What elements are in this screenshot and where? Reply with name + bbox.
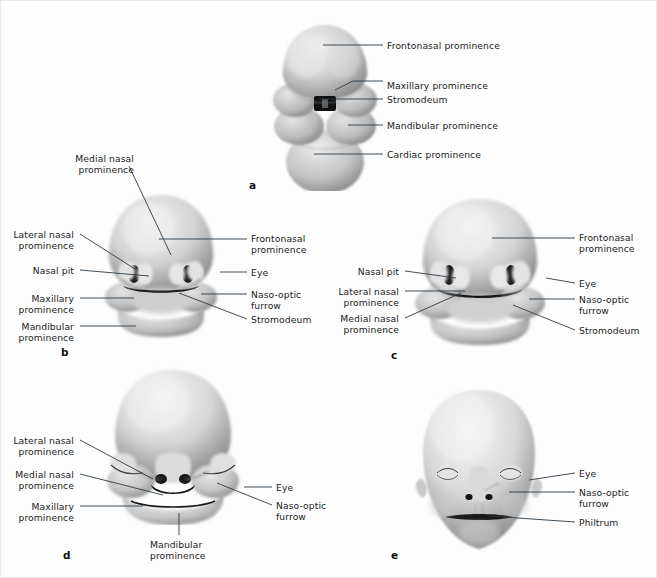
label-b-1: Lateral nasal prominence	[13, 229, 74, 252]
panel-letter-d: d	[63, 549, 71, 561]
label-e-1: Naso-optic furrow	[579, 487, 629, 510]
label-c-4: Eye	[579, 278, 596, 289]
label-e-0: Eye	[579, 468, 596, 479]
label-b-0: Medial nasal prominence	[75, 153, 134, 176]
label-b-4: Mandibular prominence	[18, 321, 74, 344]
figure-container: Frontonasal prominenceMaxillary prominen…	[0, 0, 657, 578]
label-a-0: Frontonasal prominence	[387, 40, 500, 51]
label-c-2: Medial nasal prominence	[340, 313, 399, 336]
label-c-3: Frontonasal prominence	[579, 232, 635, 255]
panel-c-illustration	[405, 195, 555, 347]
panel-letter-b: b	[61, 346, 69, 358]
label-b-7: Naso-optic furrow	[251, 289, 301, 312]
label-a-1: Maxillary prominence	[387, 80, 488, 91]
label-c-1: Lateral nasal prominence	[338, 286, 399, 309]
label-b-3: Maxillary prominence	[18, 293, 74, 316]
label-d-1: Medial nasal prominence	[15, 469, 74, 492]
label-d-3: Mandibular prominence	[150, 539, 206, 562]
label-b-6: Eye	[251, 267, 268, 278]
label-a-2: Stromodeum	[387, 94, 447, 105]
panel-b-illustration	[97, 191, 225, 341]
panel-d-illustration	[97, 367, 249, 525]
label-c-6: Stromodeum	[579, 325, 639, 336]
panel-e-illustration	[403, 387, 555, 559]
label-c-5: Naso-optic furrow	[579, 294, 629, 317]
label-b-5: Frontonasal prominence	[251, 233, 307, 256]
panel-letter-c: c	[391, 349, 397, 361]
label-e-2: Philtrum	[579, 517, 618, 528]
panel-letter-a: a	[249, 179, 256, 191]
panel-letter-e: e	[391, 549, 398, 561]
panel-a-illustration	[269, 19, 381, 191]
label-a-4: Cardiac prominence	[387, 149, 481, 160]
label-d-2: Maxillary prominence	[18, 501, 74, 524]
label-c-0: Nasal pit	[358, 266, 399, 277]
label-a-3: Mandibular prominence	[387, 120, 498, 131]
label-b-8: Stromodeum	[251, 314, 311, 325]
label-d-5: Naso-optic furrow	[276, 500, 326, 523]
label-d-0: Lateral nasal prominence	[13, 435, 74, 458]
label-d-4: Eye	[276, 482, 293, 493]
label-b-2: Nasal pit	[33, 265, 74, 276]
